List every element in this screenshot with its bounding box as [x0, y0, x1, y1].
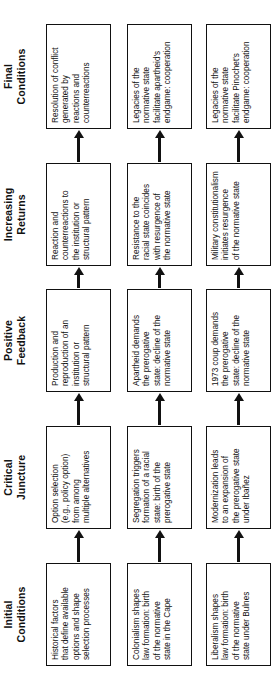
arrow-chile-2	[233, 393, 245, 425]
path-dependence-flowchart: Initial Conditions Critical Juncture Pos…	[0, 0, 277, 689]
node-label: 1973 coup demands the prerogative state:…	[211, 312, 253, 386]
flowchart-row-generic: Historical factors that define available…	[46, 0, 111, 689]
node-generic-increasing-returns: Reaction and counterreactions to the ins…	[46, 163, 111, 266]
arrow-chile-1	[233, 530, 245, 562]
arrow-shaft	[237, 138, 240, 162]
arrow-head-icon	[74, 267, 84, 275]
flowchart-row-chile: Liberalism shapes law formation: birth o…	[206, 0, 271, 689]
node-label: Resistance to the racial state coincides…	[132, 184, 174, 260]
arrow-head-icon	[155, 267, 165, 275]
arrow-head-icon	[234, 393, 244, 401]
arrow-generic-1	[73, 530, 85, 562]
arrow-shaft	[237, 538, 240, 562]
arrow-chile-4	[233, 130, 245, 162]
arrow-head-icon	[155, 530, 165, 538]
node-label: Liberalism shapes law formation: birth o…	[211, 591, 253, 660]
node-label: Colonialism shapes law formation: birth …	[132, 589, 174, 660]
arrow-generic-4	[73, 130, 85, 162]
arrow-south-africa-2	[154, 393, 166, 425]
arrow-shaft	[237, 275, 240, 288]
node-generic-critical-juncture: Option selection (e.g., policy option) f…	[46, 426, 111, 529]
arrow-head-icon	[74, 530, 84, 538]
arrow-south-africa-4	[154, 130, 166, 162]
arrow-south-africa-3	[154, 267, 166, 288]
node-chile-critical-juncture: Modernization leads to an expansion of t…	[206, 426, 271, 529]
arrow-head-icon	[234, 530, 244, 538]
arrow-head-icon	[234, 130, 244, 138]
node-label: Reaction and counterreactions to the ins…	[51, 190, 93, 260]
node-label: Legacies of the normative state facilita…	[132, 42, 174, 123]
arrow-generic-2	[73, 393, 85, 425]
node-south-africa-initial-conditions: Colonialism shapes law formation: birth …	[127, 563, 192, 666]
node-generic-initial-conditions: Historical factors that define available…	[46, 563, 111, 666]
rotated-figure-canvas: Initial Conditions Critical Juncture Pos…	[0, 0, 277, 689]
arrow-head-icon	[155, 393, 165, 401]
arrow-south-africa-1	[154, 530, 166, 562]
node-generic-final-conditions: Resolution of conflict generated by reac…	[46, 24, 111, 129]
arrow-shaft	[158, 401, 161, 425]
node-generic-positive-feedback: Production and reproduction of an instit…	[46, 289, 111, 392]
node-label: Production and reproduction of an instit…	[51, 320, 93, 386]
arrow-head-icon	[234, 267, 244, 275]
node-south-africa-critical-juncture: Segregation triggers formation of a raci…	[127, 426, 192, 529]
arrow-head-icon	[74, 393, 84, 401]
node-label: Resolution of conflict generated by reac…	[51, 47, 93, 123]
arrow-shaft	[77, 401, 80, 425]
node-label: Military constitutionalism initiates res…	[211, 171, 242, 260]
node-label: Legacies of the normative state facilita…	[211, 42, 253, 123]
flowchart-rows: Historical factors that define available…	[0, 0, 277, 689]
node-chile-final-conditions: Legacies of the normative state facilita…	[206, 24, 271, 129]
node-label: Apartheid demands the prerogative state:…	[132, 315, 174, 386]
node-label: Option selection (e.g., policy option) f…	[51, 451, 93, 523]
arrow-generic-3	[73, 267, 85, 288]
arrow-head-icon	[155, 130, 165, 138]
node-chile-positive-feedback: 1973 coup demands the prerogative state:…	[206, 289, 271, 392]
arrow-shaft	[158, 538, 161, 562]
arrow-shaft	[158, 138, 161, 162]
node-label: Segregation triggers formation of a raci…	[132, 449, 174, 523]
node-south-africa-increasing-returns: Resistance to the racial state coincides…	[127, 163, 192, 266]
node-chile-initial-conditions: Liberalism shapes law formation: birth o…	[206, 563, 271, 666]
flowchart-row-south-africa: Colonialism shapes law formation: birth …	[127, 0, 192, 689]
arrow-shaft	[237, 401, 240, 425]
arrow-head-icon	[74, 130, 84, 138]
node-label: Modernization leads to an expansion of t…	[211, 448, 253, 523]
arrow-shaft	[77, 138, 80, 162]
node-chile-increasing-returns: Military constitutionalism initiates res…	[206, 163, 271, 266]
node-label: Historical factors that define available…	[51, 587, 93, 660]
arrow-shaft	[77, 538, 80, 562]
arrow-chile-3	[233, 267, 245, 288]
arrow-shaft	[77, 275, 80, 288]
node-south-africa-positive-feedback: Apartheid demands the prerogative state:…	[127, 289, 192, 392]
node-south-africa-final-conditions: Legacies of the normative state facilita…	[127, 24, 192, 129]
arrow-shaft	[158, 275, 161, 288]
